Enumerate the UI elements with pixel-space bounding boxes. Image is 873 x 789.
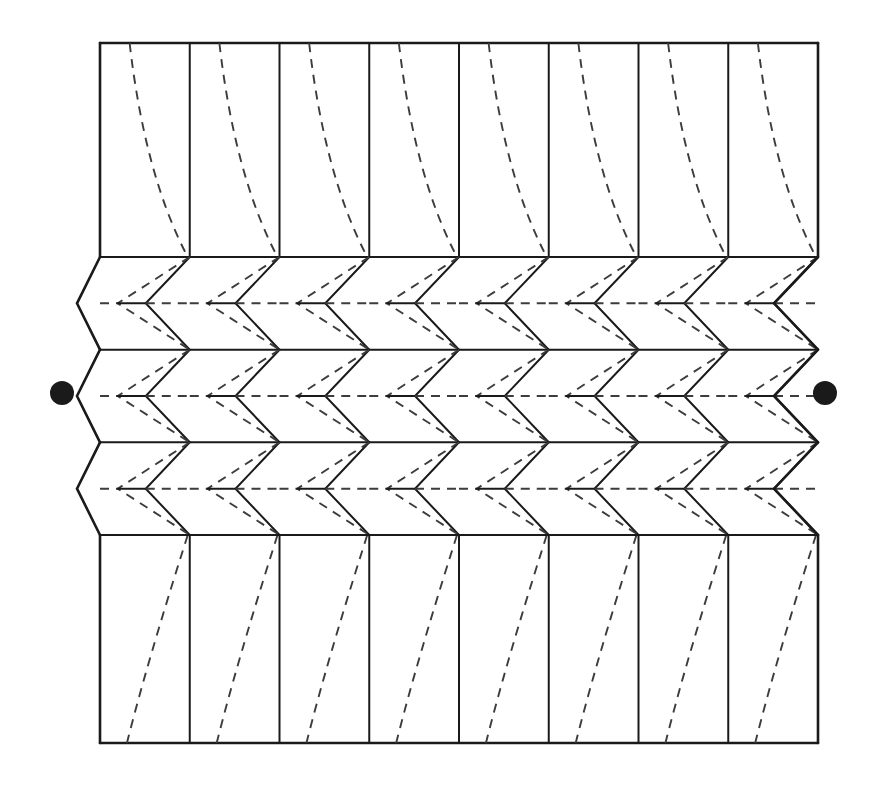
folded-pattern-figure xyxy=(0,0,873,789)
left-dot xyxy=(50,381,74,405)
right-dot xyxy=(813,381,837,405)
figure-background xyxy=(0,0,873,789)
pattern-svg xyxy=(0,0,873,789)
